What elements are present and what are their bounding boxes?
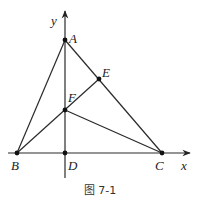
segment-FC: [65, 110, 162, 153]
figure-7-1: y x A E F B D C 图 7-1: [0, 0, 201, 200]
geometry-diagram: y x A E F B D C 图 7-1: [0, 0, 201, 200]
point-B: [15, 151, 20, 156]
segment-AB: [17, 40, 65, 153]
y-axis-label: y: [49, 13, 57, 28]
segment-BE: [17, 79, 99, 153]
point-E: [97, 77, 102, 82]
label-D: D: [67, 158, 78, 173]
label-A: A: [68, 31, 77, 46]
label-C: C: [155, 158, 164, 173]
label-F: F: [67, 90, 77, 105]
point-F: [63, 108, 68, 113]
point-C: [160, 151, 165, 156]
point-D: [63, 151, 68, 156]
point-A: [63, 38, 68, 43]
figure-caption: 图 7-1: [84, 184, 116, 197]
x-axis-label: x: [180, 158, 187, 173]
label-B: B: [11, 158, 19, 173]
label-E: E: [101, 65, 110, 80]
